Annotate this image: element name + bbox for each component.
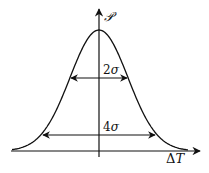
y-axis-label: 𝒫 <box>104 9 117 24</box>
label-4sigma: 4σ <box>103 120 120 134</box>
label-2sigma: 2σ <box>103 63 120 77</box>
x-axis-label: ΔT <box>166 151 185 166</box>
gaussian-curve <box>12 30 188 150</box>
gaussian-diagram: 𝒫 2σ 4σ ΔT <box>0 0 209 173</box>
